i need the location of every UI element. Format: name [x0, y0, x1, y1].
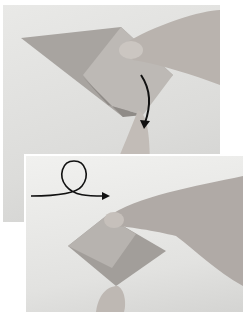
photo-step-2 [24, 154, 243, 312]
hand-bottom [96, 286, 125, 312]
turn-over-arrow-icon [31, 161, 104, 196]
photo-step-2-illustration [26, 156, 243, 312]
